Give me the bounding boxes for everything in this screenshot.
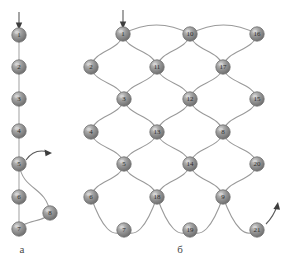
graph-node-10[interactable]: 10 <box>183 27 197 41</box>
node-label: 14 <box>187 160 195 168</box>
node-label: 3 <box>17 95 21 103</box>
graph-node-14[interactable]: 14 <box>183 157 197 171</box>
graph-edge <box>190 25 257 34</box>
graph-node-3[interactable]: 3 <box>117 92 131 106</box>
node-label: 9 <box>221 193 225 201</box>
graph-node-15[interactable]: 15 <box>250 92 264 106</box>
panel-b-edges <box>91 25 257 233</box>
graph-node-7[interactable]: 7 <box>117 223 131 237</box>
node-label: 11 <box>154 63 161 71</box>
exit-arrow-head-b <box>273 202 280 210</box>
node-label: 2 <box>89 63 93 71</box>
graph-node-19[interactable]: 19 <box>183 223 197 237</box>
graph-node-8[interactable]: 8 <box>216 125 230 139</box>
node-label: 1 <box>121 30 125 38</box>
graph-edge <box>123 25 190 34</box>
panel-b-caption: б <box>165 243 195 255</box>
graph-node-4[interactable]: 4 <box>12 124 26 138</box>
graph-node-21[interactable]: 21 <box>250 223 264 237</box>
node-label: 20 <box>254 160 262 168</box>
graph-node-17[interactable]: 17 <box>216 60 230 74</box>
node-label: 4 <box>89 128 93 136</box>
node-label: 6 <box>89 193 93 201</box>
node-label: 16 <box>254 30 262 38</box>
graph-node-8[interactable]: 8 <box>43 206 57 220</box>
node-label: 6 <box>17 193 21 201</box>
node-label: 13 <box>154 128 162 136</box>
graph-node-13[interactable]: 13 <box>150 125 164 139</box>
node-label: 4 <box>17 127 21 135</box>
node-label: 17 <box>220 63 228 71</box>
node-label: 2 <box>17 63 21 71</box>
node-label: 5 <box>122 160 126 168</box>
graph-node-5[interactable]: 5 <box>12 157 26 171</box>
graph-node-16[interactable]: 16 <box>250 27 264 41</box>
graph-node-11[interactable]: 11 <box>150 60 164 74</box>
node-label: 10 <box>187 30 195 38</box>
graph-node-2[interactable]: 2 <box>84 60 98 74</box>
graph-node-7[interactable]: 7 <box>12 222 26 236</box>
panel-a-graph: 12345678 <box>12 12 57 236</box>
graph-node-18[interactable]: 18 <box>150 190 164 204</box>
node-label: 12 <box>187 95 195 103</box>
node-label: 7 <box>17 225 21 233</box>
graph-node-4[interactable]: 4 <box>84 125 98 139</box>
node-label: 15 <box>254 95 262 103</box>
node-label: 19 <box>187 226 195 234</box>
graph-node-2[interactable]: 2 <box>12 60 26 74</box>
node-label: 8 <box>221 128 225 136</box>
node-label: 8 <box>48 209 52 217</box>
graph-node-6[interactable]: 6 <box>84 190 98 204</box>
graph-node-20[interactable]: 20 <box>250 157 264 171</box>
node-label: 5 <box>17 160 21 168</box>
panel-b-graph: 110162111731215413851420618971921 <box>84 10 280 237</box>
node-label: 21 <box>254 226 262 234</box>
graph-node-1[interactable]: 1 <box>12 28 26 42</box>
graph-node-6[interactable]: 6 <box>12 190 26 204</box>
graph-edge <box>19 164 50 213</box>
exit-arrow-head-a <box>45 150 53 157</box>
graph-node-3[interactable]: 3 <box>12 92 26 106</box>
node-label: 18 <box>154 193 162 201</box>
node-label: 7 <box>122 226 126 234</box>
graph-node-12[interactable]: 12 <box>183 92 197 106</box>
graph-node-5[interactable]: 5 <box>117 157 131 171</box>
exit-arrow-line-a <box>26 151 48 160</box>
node-label: 3 <box>122 95 126 103</box>
graph-node-9[interactable]: 9 <box>216 190 230 204</box>
figure-root: 12345678 1101621117312154138514206189719… <box>0 0 286 269</box>
panel-b-nodes: 110162111731215413851420618971921 <box>84 27 264 237</box>
panel-a-caption: а <box>7 243 37 255</box>
graph-node-1[interactable]: 1 <box>116 27 130 41</box>
graph-canvas: 12345678 1101621117312154138514206189719… <box>0 0 286 269</box>
node-label: 1 <box>17 31 21 39</box>
